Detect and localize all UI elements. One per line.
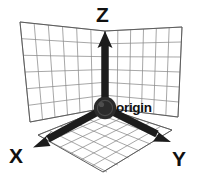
x-axis-label: X (9, 144, 23, 167)
origin-marker (94, 97, 116, 119)
z-axis-label: Z (96, 3, 109, 26)
axes-svg-canvas: Z X Y origin (0, 0, 198, 183)
origin-sphere-highlight (99, 102, 104, 107)
xz-plane-wall-left (20, 22, 105, 122)
y-axis-label: Y (172, 147, 186, 170)
coordinate-axes-diagram: Z X Y origin (0, 0, 198, 183)
origin-label: origin (116, 100, 152, 115)
